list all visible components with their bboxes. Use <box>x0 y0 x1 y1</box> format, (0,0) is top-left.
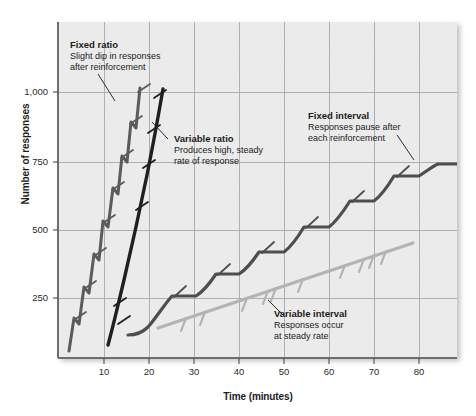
x-tick-label-20: 20 <box>134 366 164 377</box>
annotation-fixed-ratio-line2: after reinforcement <box>70 62 161 73</box>
annotation-variable-interval-line1: Responses occur <box>274 320 347 331</box>
annotation-fixed-ratio-line1: Slight dip in responses <box>70 51 161 62</box>
schedules-of-reinforcement-chart: Number of responses Time (minutes) 1,000… <box>0 0 476 416</box>
annotation-variable-ratio: Variable ratio Produces high, steady rat… <box>174 133 263 167</box>
x-tick-label-10: 10 <box>89 366 119 377</box>
annotation-fixed-ratio: Fixed ratio Slight dip in responses afte… <box>70 39 161 73</box>
y-tick-label-750: 750 <box>4 156 48 167</box>
y-tick-label-500: 500 <box>4 224 48 235</box>
y-tick-label-1000: 1,000 <box>4 86 48 97</box>
annotation-variable-ratio-line2: rate of response <box>174 156 263 167</box>
annotation-variable-interval: Variable interval Responses occur at ste… <box>274 308 347 342</box>
x-tick-label-50: 50 <box>269 366 299 377</box>
x-tick-label-80: 80 <box>404 366 434 377</box>
annotation-fixed-interval-line2: each reinforcement <box>308 133 401 144</box>
y-axis-title: Number of responses <box>20 104 31 205</box>
annotation-variable-ratio-line1: Produces high, steady <box>174 145 263 156</box>
x-axis-title: Time (minutes) <box>223 391 293 402</box>
y-tick-label-250: 250 <box>4 292 48 303</box>
x-tick-label-60: 60 <box>314 366 344 377</box>
annotation-fixed-interval: Fixed interval Responses pause after eac… <box>308 110 401 144</box>
x-tick-label-30: 30 <box>179 366 209 377</box>
x-tick-marks <box>104 358 419 364</box>
annotation-fixed-ratio-heading: Fixed ratio <box>70 39 161 51</box>
x-tick-label-70: 70 <box>359 366 389 377</box>
annotation-fixed-interval-heading: Fixed interval <box>308 110 401 122</box>
x-tick-label-40: 40 <box>224 366 254 377</box>
annotation-fixed-interval-line1: Responses pause after <box>308 122 401 133</box>
y-tick-marks <box>53 92 58 298</box>
annotation-variable-interval-line2: at steady rate <box>274 331 347 342</box>
annotation-variable-interval-heading: Variable interval <box>274 308 347 320</box>
annotation-variable-ratio-heading: Variable ratio <box>174 133 263 145</box>
x-axis-title-wrap: Time (minutes) <box>58 386 458 404</box>
y-axis-title-wrap: Number of responses <box>15 94 33 214</box>
